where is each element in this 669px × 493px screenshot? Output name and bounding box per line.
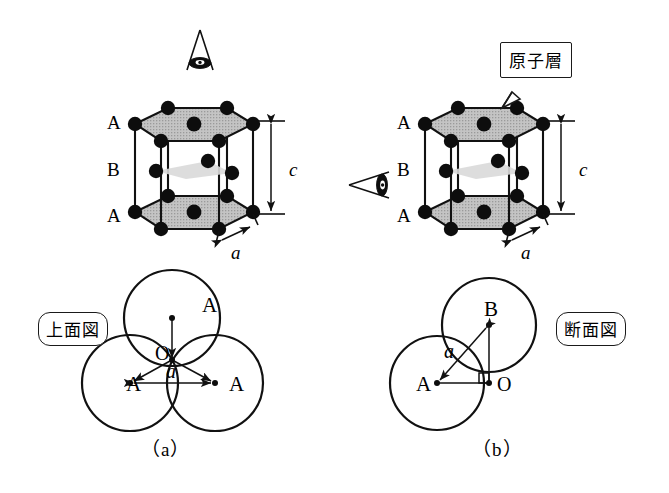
c-label-right: c [579,160,587,179]
distance-label-a-topview: a [166,361,176,381]
sphere-label-a-right: A [229,374,244,395]
cross-section-spheres [390,278,536,430]
c-dimension-right [548,121,575,214]
layer-label-a-bottom-right: A [397,206,411,225]
caption-b: （b） [472,440,523,459]
eye-looking-down-icon [187,30,213,70]
layer-label-a-top-left: A [107,113,121,132]
c-label-left: c [289,160,297,179]
hcp-prism-left [128,101,285,243]
layer-label-b-left: B [107,160,120,179]
sphere-label-a-lower: A [416,374,431,395]
atomic-layer-callout: 原子層 [500,42,572,78]
top-view-spheres [82,270,263,431]
layer-label-a-top-right: A [397,113,411,132]
sphere-label-b-upper: B [484,299,498,320]
eye-looking-sideways-icon [349,172,389,198]
a-label-right: a [521,243,531,262]
c-dimension-left [258,121,285,214]
hcp-crystal-structure-figure: A B A c a A B A c a 原子層 上面図 断面図 A A A O … [0,0,669,493]
caption-a: （a） [141,440,190,459]
top-view-label: 上面図 [38,312,108,346]
cross-section-label: 断面図 [556,312,626,346]
sphere-label-a-left: A [126,374,141,395]
point-label-o-crosssection: O [497,374,511,394]
layer-label-a-bottom-left: A [107,206,121,225]
distance-label-a-crosssection: a [444,341,454,361]
a-label-left: a [231,243,241,262]
hcp-prism-right [418,92,575,243]
sphere-label-a-top: A [202,295,217,316]
layer-label-b-right: B [397,160,410,179]
